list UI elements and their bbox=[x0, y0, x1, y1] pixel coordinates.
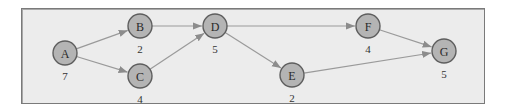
edge-a-b bbox=[76, 30, 127, 49]
edge-e-g bbox=[304, 53, 431, 73]
node-g: G5 bbox=[432, 39, 456, 80]
edge-d-e bbox=[225, 32, 281, 68]
node-label: G bbox=[440, 45, 449, 59]
node-c: C4 bbox=[128, 64, 152, 105]
edge-a-c bbox=[76, 57, 127, 73]
node-weight: 5 bbox=[212, 43, 218, 55]
node-label: A bbox=[61, 47, 70, 61]
edge-c-d bbox=[150, 33, 204, 69]
nodes-layer: A7B2C4D5E2F4G5 bbox=[53, 14, 456, 105]
node-weight: 7 bbox=[62, 70, 68, 82]
edge-f-g bbox=[379, 30, 431, 47]
node-a: A7 bbox=[53, 41, 77, 82]
node-b: B2 bbox=[128, 14, 152, 55]
node-weight: 4 bbox=[365, 43, 371, 55]
node-label: D bbox=[211, 20, 220, 34]
directed-graph: A7B2C4D5E2F4G5 bbox=[0, 0, 508, 110]
node-label: B bbox=[136, 20, 144, 34]
node-weight: 4 bbox=[137, 93, 143, 105]
node-weight: 5 bbox=[441, 68, 447, 80]
node-weight: 2 bbox=[289, 92, 295, 104]
node-label: E bbox=[288, 69, 295, 83]
node-d: D5 bbox=[203, 14, 227, 55]
node-label: F bbox=[365, 20, 372, 34]
node-f: F4 bbox=[356, 14, 380, 55]
node-label: C bbox=[136, 70, 144, 84]
node-weight: 2 bbox=[137, 43, 143, 55]
node-e: E2 bbox=[280, 63, 304, 104]
